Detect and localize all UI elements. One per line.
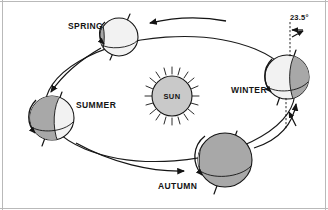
seasons-diagram: SUN SPRING [0, 0, 328, 210]
season-label-autumn: AUTUMN [158, 181, 197, 191]
season-label-spring: SPRING [68, 21, 103, 31]
spring-globe-disc [100, 18, 138, 56]
season-label-summer: SUMMER [76, 100, 116, 110]
season-label-winter: WINTER [231, 85, 267, 95]
seasons-illustration: SUN SPRING [0, 0, 328, 210]
tilt-angle-label: 23.5° [290, 13, 309, 22]
sun-label: SUN [163, 92, 180, 101]
autumn-globe-disc [198, 133, 252, 187]
